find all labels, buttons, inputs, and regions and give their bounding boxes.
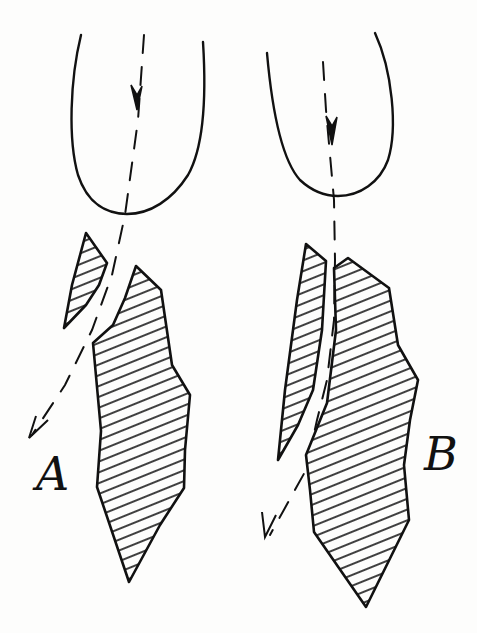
- probe-outline-a: [72, 35, 205, 214]
- small-fragment-a: [64, 233, 107, 328]
- panel-b: B: [262, 33, 458, 607]
- direction-arrow-a-bottom: [29, 416, 48, 438]
- direction-arrow-a-top: [131, 85, 142, 110]
- large-fragment-a: [93, 266, 190, 582]
- probe-outline-b: [267, 33, 393, 196]
- direction-arrow-b-bottom: [262, 512, 276, 537]
- panel-a: A: [29, 35, 204, 582]
- diagram-canvas: A B: [0, 0, 477, 633]
- label-a: A: [32, 447, 69, 501]
- label-b: B: [423, 427, 458, 481]
